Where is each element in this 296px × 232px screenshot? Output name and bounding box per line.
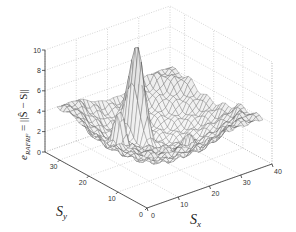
z-tick-label: 4: [37, 108, 41, 115]
surface-plot: 02468100102030010203040 Sx Sy eRAFRF = |…: [0, 0, 296, 232]
y-axis-label: Sy: [56, 204, 67, 221]
z-axis-label: eRAFRF = ||Ŝ − S||: [17, 89, 32, 160]
x-tick-label: 20: [212, 190, 220, 197]
z-tick-label: 0: [37, 149, 41, 156]
z-tick-label: 8: [37, 67, 41, 74]
z-tick-label: 10: [33, 47, 41, 54]
y-tick-label: 10: [108, 195, 116, 202]
surface-mesh: [57, 48, 263, 164]
x-tick-label: 0: [151, 212, 155, 219]
x-tick-label: 30: [243, 179, 251, 186]
x-axis-label: Sx: [190, 212, 201, 229]
y-tick-label: 0: [139, 211, 143, 218]
z-tick-label: 6: [37, 87, 41, 94]
x-tick-label: 40: [274, 168, 282, 175]
y-tick-label: 30: [50, 163, 58, 170]
x-tick-label: 10: [180, 201, 188, 208]
z-tick-label: 2: [37, 128, 41, 135]
y-tick-label: 20: [79, 179, 87, 186]
